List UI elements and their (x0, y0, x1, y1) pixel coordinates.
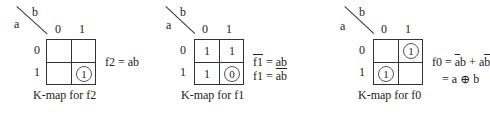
cell-00 (374, 40, 398, 62)
kmap-caption: K-map for f2 (33, 88, 96, 103)
col-var-label: b (32, 6, 38, 18)
row-var-label: a (14, 18, 19, 30)
col-var-label: b (359, 6, 365, 18)
col-header-0: 0 (55, 23, 61, 35)
equation-f1-complement: f1 = ab (253, 55, 287, 69)
circled-minterm: 1 (76, 66, 92, 82)
cell-01: 1 (220, 40, 244, 62)
row-header-0: 0 (34, 44, 40, 56)
row-header-0: 0 (180, 44, 186, 56)
row-var-label: a (166, 19, 171, 31)
cell-11: 1 (72, 63, 96, 85)
col-header-1: 1 (226, 23, 232, 35)
kmap-grid: 1 1 1 0 (194, 39, 244, 85)
cell-10: 1 (374, 63, 398, 85)
equation-f1: f1 = ab (253, 69, 287, 83)
cell-00: 1 (195, 40, 219, 62)
row-header-1: 1 (34, 66, 40, 78)
cell-01: 1 (399, 40, 423, 62)
cell-11 (399, 63, 423, 85)
circled-maxterm: 0 (224, 66, 240, 82)
col-header-1: 1 (405, 23, 411, 35)
col-header-0: 0 (202, 23, 208, 35)
kmap-grid: 1 1 (373, 39, 423, 85)
row-header-1: 1 (359, 66, 365, 78)
circled-minterm: 1 (378, 66, 394, 82)
col-var-label: b (180, 6, 186, 18)
col-header-0: 0 (381, 23, 387, 35)
kmap-caption: K-map for f1 (181, 88, 244, 103)
col-header-1: 1 (79, 23, 85, 35)
kmap-caption: K-map for f0 (358, 88, 421, 103)
cell-10: 1 (195, 63, 219, 85)
circled-minterm: 1 (403, 43, 419, 59)
cell-00 (47, 40, 71, 62)
cell-11: 0 (220, 63, 244, 85)
equation-f2: f2 = ab (105, 55, 139, 69)
cell-01 (72, 40, 96, 62)
row-header-0: 0 (359, 44, 365, 56)
equation-f0-xor: = a ⊕ b (442, 72, 479, 86)
kmap-grid: 1 (46, 39, 96, 85)
cell-10 (47, 63, 71, 85)
row-var-label: a (340, 20, 345, 32)
row-header-1: 1 (180, 66, 186, 78)
equation-f0-sop: f0 = ab + ab (432, 55, 490, 69)
